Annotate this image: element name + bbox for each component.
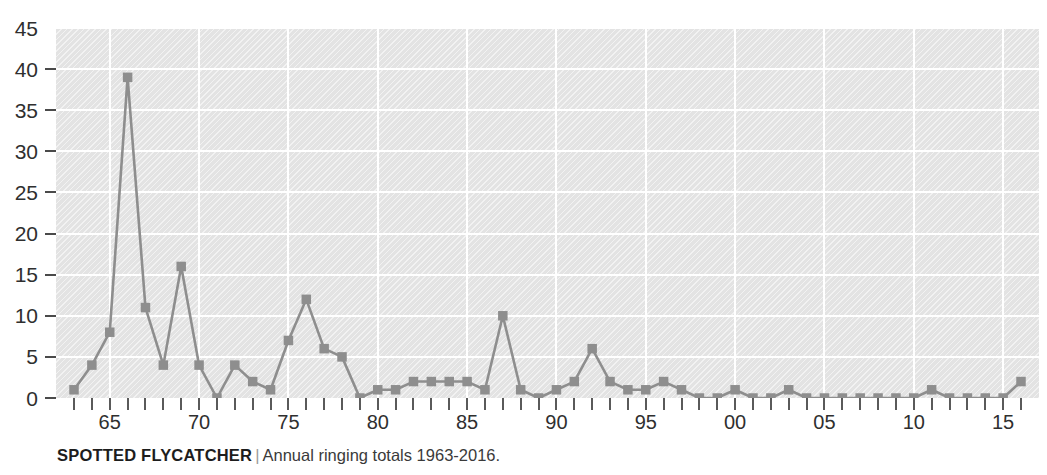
y-axis-tick-dash <box>45 150 56 152</box>
x-axis-tick <box>359 398 361 410</box>
x-axis-tick-label: 75 <box>277 412 299 432</box>
series-line-spotted-flycatcher: 1963: 11964: 41965: 81966: 391967: 11196… <box>56 28 1039 398</box>
y-axis-tick-dash <box>45 191 56 193</box>
ringing-totals-chart: 051015202530354045 1963: 11964: 41965: 8… <box>0 0 1047 475</box>
x-axis-tick-label: 85 <box>456 412 478 432</box>
x-axis-tick <box>520 398 522 410</box>
x-axis-tick <box>663 398 665 410</box>
x-axis-tick-label: 15 <box>992 412 1014 432</box>
data-point-marker: 1975: 7 <box>284 336 294 346</box>
data-point-marker: 1996: 2 <box>659 377 669 387</box>
y-axis-tick-dash <box>45 315 56 317</box>
x-axis-tick <box>180 398 182 410</box>
x-axis-tick <box>627 398 629 410</box>
x-axis-tick <box>323 398 325 410</box>
x-axis-tick <box>698 398 700 410</box>
data-point-marker: 1992: 6 <box>587 344 597 354</box>
data-point-marker: 1966: 39 <box>123 73 133 83</box>
data-point-marker: 1985: 2 <box>462 377 472 387</box>
x-axis-tick <box>395 398 397 410</box>
y-axis-tick-label: 10 <box>15 305 38 326</box>
chart-page: 051015202530354045 1963: 11964: 41965: 8… <box>0 0 1047 475</box>
data-point-marker: 1970: 4 <box>194 360 204 370</box>
y-axis-tick-dash <box>45 27 56 29</box>
data-point-marker: 2016: 2 <box>1016 377 1026 387</box>
data-point-marker: 1972: 4 <box>230 360 240 370</box>
y-axis-tick-label: 25 <box>15 182 38 203</box>
x-axis-tick <box>538 398 540 410</box>
x-axis-tick <box>806 398 808 410</box>
data-point-marker: 1973: 2 <box>248 377 258 387</box>
y-axis-tick-dash <box>45 356 56 358</box>
y-axis-tick-label: 30 <box>15 141 38 162</box>
x-axis-tick <box>984 398 986 410</box>
y-axis-tick-label: 35 <box>15 100 38 121</box>
x-axis-tick <box>931 398 933 410</box>
y-axis-tick-dash <box>45 274 56 276</box>
data-point-marker: 1995: 1 <box>641 385 651 395</box>
x-axis-tick <box>502 398 504 410</box>
x-axis-tick <box>127 398 129 410</box>
y-axis-tick-label: 0 <box>26 388 38 409</box>
caption-subtitle: Annual ringing totals 1963-2016. <box>263 446 501 464</box>
x-axis-tick <box>645 398 647 410</box>
data-point-marker: 1994: 1 <box>623 385 633 395</box>
x-axis-tick <box>144 398 146 410</box>
x-axis-tick <box>412 398 414 410</box>
data-point-marker: 1969: 16 <box>176 262 186 272</box>
data-point-marker: 2003: 1 <box>784 385 794 395</box>
x-axis-tick-label: 10 <box>903 412 925 432</box>
data-point-marker: 1987: 10 <box>498 311 508 321</box>
x-axis-tick <box>1020 398 1022 410</box>
x-axis-tick <box>913 398 915 410</box>
x-axis-tick <box>162 398 164 410</box>
x-axis-tick <box>716 398 718 410</box>
x-axis-tick <box>287 398 289 410</box>
y-axis-tick-label: 15 <box>15 264 38 285</box>
data-point-marker: 2000: 1 <box>730 385 740 395</box>
y-axis: 051015202530354045 <box>0 28 56 398</box>
x-axis-tick <box>573 398 575 410</box>
x-axis-tick-label: 80 <box>367 412 389 432</box>
data-point-marker: 1976: 12 <box>302 295 312 305</box>
x-axis-tick <box>752 398 754 410</box>
x-axis-tick <box>949 398 951 410</box>
data-point-marker: 1980: 1 <box>373 385 383 395</box>
data-point-marker: 1990: 1 <box>552 385 562 395</box>
x-axis-tick <box>859 398 861 410</box>
series-path <box>74 77 1021 398</box>
x-axis-tick <box>466 398 468 410</box>
data-point-marker: 1983: 2 <box>427 377 437 387</box>
data-point-marker: 1963: 1 <box>69 385 79 395</box>
x-axis-tick <box>1002 398 1004 410</box>
data-point-marker: 1991: 2 <box>570 377 580 387</box>
x-axis-tick <box>788 398 790 410</box>
y-axis-tick-dash <box>45 233 56 235</box>
x-axis-tick <box>895 398 897 410</box>
x-axis-tick <box>216 398 218 410</box>
y-axis-tick-dash <box>45 109 56 111</box>
x-axis-tick <box>966 398 968 410</box>
data-point-marker: 1997: 1 <box>677 385 687 395</box>
x-axis-tick <box>91 398 93 410</box>
x-axis-tick <box>823 398 825 410</box>
data-point-marker: 1993: 2 <box>605 377 615 387</box>
x-axis-tick <box>591 398 593 410</box>
x-axis-tick <box>841 398 843 410</box>
x-axis-tick <box>109 398 111 410</box>
y-axis-tick-label: 45 <box>15 18 38 39</box>
data-point-marker: 1984: 2 <box>444 377 454 387</box>
x-axis-tick <box>198 398 200 410</box>
x-axis-tick <box>770 398 772 410</box>
data-point-marker: 1986: 1 <box>480 385 490 395</box>
caption-separator: | <box>252 446 262 464</box>
x-axis-tick-label: 70 <box>188 412 210 432</box>
x-axis-tick <box>377 398 379 410</box>
x-axis-tick <box>305 398 307 410</box>
x-axis-tick <box>341 398 343 410</box>
x-axis: 6570758085909500051015 <box>56 398 1039 440</box>
x-axis-tick-label: 90 <box>545 412 567 432</box>
data-point-marker: 1978: 5 <box>337 352 347 362</box>
chart-caption: SPOTTED FLYCATCHER|Annual ringing totals… <box>57 446 500 466</box>
plot-area: 1963: 11964: 41965: 81966: 391967: 11196… <box>56 28 1039 398</box>
